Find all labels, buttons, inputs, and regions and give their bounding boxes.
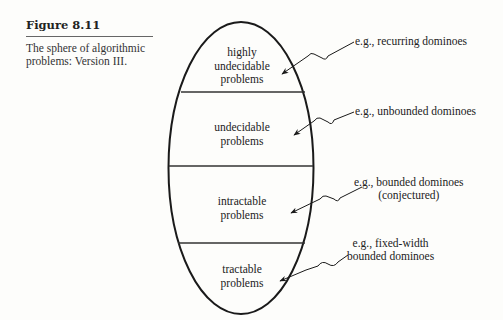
region-label-line: intractable	[201, 195, 283, 209]
pointer-arrow	[294, 112, 354, 135]
pointer-arrow	[280, 255, 348, 281]
example-bounded-dominoes: e.g., bounded dominoes (conjectured)	[354, 176, 464, 202]
region-label-line: problems	[201, 209, 283, 223]
region-intractable: intractable problems	[201, 195, 283, 222]
region-label-line: problems	[201, 277, 283, 291]
example-fixed-width-dominoes: e.g., fixed-width bounded dominoes	[347, 237, 434, 263]
example-label-line: bounded dominoes	[347, 250, 434, 263]
region-label-line: undecidable	[201, 60, 283, 74]
region-undecidable: undecidable problems	[201, 121, 283, 148]
example-recurring-dominoes: e.g., recurring dominoes	[355, 35, 467, 48]
region-label-line: undecidable	[201, 121, 283, 135]
example-label-line: e.g., recurring dominoes	[355, 35, 467, 48]
example-label-line: (conjectured)	[354, 189, 464, 202]
region-label-line: problems	[201, 73, 283, 87]
example-label-line: e.g., bounded dominoes	[354, 176, 464, 189]
example-label-line: e.g., unbounded dominoes	[355, 105, 476, 118]
pointer-arrow	[282, 42, 354, 74]
pointer-arrow	[291, 187, 362, 213]
region-highly-undecidable: highly undecidable problems	[201, 46, 283, 87]
region-tractable: tractable problems	[201, 263, 283, 290]
region-label-line: problems	[201, 135, 283, 149]
example-label-line: e.g., fixed-width	[347, 237, 434, 250]
region-label-line: highly	[201, 46, 283, 60]
example-unbounded-dominoes: e.g., unbounded dominoes	[355, 105, 476, 118]
region-label-line: tractable	[201, 263, 283, 277]
